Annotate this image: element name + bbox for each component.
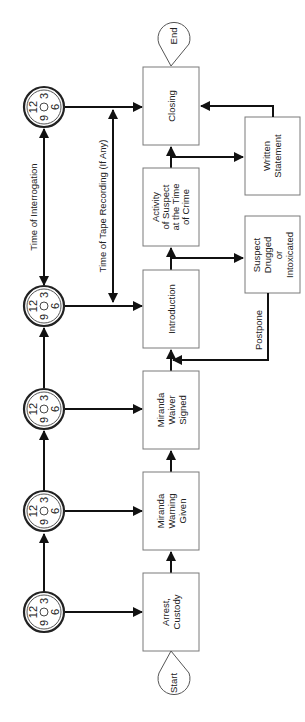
svg-text:Waiver: Waiver [166, 395, 177, 424]
clock-icon: 12 3 6 9 [24, 286, 64, 326]
svg-text:3: 3 [38, 292, 50, 298]
svg-text:3: 3 [38, 497, 50, 503]
svg-text:3: 3 [38, 93, 50, 99]
svg-text:9: 9 [38, 620, 50, 626]
svg-text:6: 6 [49, 508, 61, 514]
time-of-interrogation-label: Time of Interrogation [28, 163, 39, 250]
end-label: End [168, 28, 179, 45]
svg-text:12: 12 [27, 505, 39, 517]
svg-text:9: 9 [38, 115, 50, 121]
svg-text:6: 6 [49, 609, 61, 615]
svg-text:9: 9 [38, 519, 50, 525]
clock-icon: 12 3 6 9 [24, 389, 64, 429]
svg-text:Intoxicated: Intoxicated [284, 232, 295, 278]
svg-text:or: or [273, 251, 284, 259]
svg-text:9: 9 [38, 314, 50, 320]
svg-text:12: 12 [27, 403, 39, 415]
interrogation-flowchart: 12 3 6 9 12 3 6 9 12 3 6 9 12 3 6 9 12 3… [0, 0, 305, 722]
svg-text:Given: Given [177, 499, 188, 524]
svg-text:Arrest,: Arrest, [160, 598, 171, 626]
svg-text:3: 3 [38, 598, 50, 604]
closing-label: Closing [166, 90, 177, 122]
clock-icon: 12 3 6 9 [24, 592, 64, 632]
svg-text:Custody: Custody [171, 594, 182, 629]
start-label: Start [168, 673, 179, 693]
svg-text:Statement: Statement [272, 134, 283, 178]
svg-text:6: 6 [49, 104, 61, 110]
arrest-label: Arrest, Custody [160, 594, 182, 629]
svg-text:3: 3 [38, 395, 50, 401]
svg-text:12: 12 [27, 300, 39, 312]
svg-text:Miranda: Miranda [155, 392, 166, 427]
svg-text:Drugged: Drugged [262, 237, 273, 273]
svg-text:6: 6 [49, 303, 61, 309]
written-statement-to-closing-arrow [201, 106, 273, 117]
svg-text:9: 9 [38, 417, 50, 423]
svg-text:12: 12 [27, 606, 39, 618]
svg-text:Signed: Signed [177, 395, 188, 425]
clock-icon: 12 3 6 9 [24, 87, 64, 127]
miranda-waiver-label: Miranda Waiver Signed [155, 392, 188, 427]
svg-text:Suspect: Suspect [251, 237, 262, 272]
svg-text:Miranda: Miranda [155, 493, 166, 528]
postpone-label: Postpone [253, 310, 264, 350]
svg-text:Warning: Warning [166, 493, 177, 528]
time-of-tape-recording-label: Time of Tape Recording (If Any) [97, 139, 108, 272]
clock-icon: 12 3 6 9 [24, 491, 64, 531]
svg-text:of Crime: of Crime [180, 189, 191, 225]
svg-text:6: 6 [49, 406, 61, 412]
svg-text:Written: Written [261, 141, 272, 171]
svg-text:12: 12 [27, 101, 39, 113]
introduction-label: Introduction [166, 284, 177, 334]
